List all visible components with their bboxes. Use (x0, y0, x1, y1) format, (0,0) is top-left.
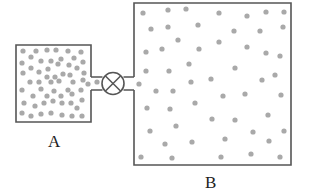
gas-particle (44, 74, 49, 79)
gas-particle (79, 97, 84, 102)
gas-particle (173, 123, 178, 128)
gas-particle (78, 49, 83, 54)
gas-particle (188, 79, 193, 84)
gas-particle (38, 111, 43, 116)
gas-particle (68, 100, 73, 105)
gas-particle (38, 86, 43, 91)
gas-particle (32, 103, 37, 108)
gas-particle (70, 79, 75, 84)
gas-particle (166, 68, 171, 73)
gas-particle (20, 48, 25, 53)
gas-particle (281, 128, 286, 133)
gas-particle (250, 129, 255, 134)
gas-particle (78, 87, 83, 92)
gas-particle (167, 106, 172, 111)
gas-particle (60, 71, 65, 76)
gas-particle (51, 88, 56, 93)
gas-particle (244, 44, 249, 49)
gas-particle (170, 88, 175, 93)
gas-particle (74, 65, 79, 70)
gas-particle (231, 28, 236, 33)
gas-particle (36, 79, 41, 84)
gas-particle (169, 155, 174, 160)
gas-particle (136, 81, 141, 86)
gas-particle (143, 49, 148, 54)
gas-particle (263, 50, 268, 55)
gas-particle (208, 76, 213, 81)
gas-particle (162, 141, 167, 146)
gas-particle (242, 91, 247, 96)
gas-particle (140, 10, 145, 15)
gas-particle (53, 47, 58, 52)
gas-expansion-diagram: A B (0, 0, 311, 193)
gas-particle (232, 65, 237, 70)
valve-icon[interactable] (102, 73, 124, 95)
gas-particle (148, 26, 153, 31)
gas-particle (69, 113, 74, 118)
gas-particle (209, 116, 214, 121)
gas-particle (281, 9, 286, 14)
gas-particle (147, 128, 152, 133)
gas-particle (20, 70, 25, 75)
gas-particle (189, 139, 194, 144)
gas-particle (65, 87, 70, 92)
gas-particle (218, 154, 223, 159)
gas-particle (183, 6, 188, 11)
gas-particle (165, 7, 170, 12)
gas-particle (67, 72, 72, 77)
gas-particle (81, 70, 86, 75)
container-a-label: A (48, 132, 61, 151)
gas-particle (79, 113, 84, 118)
gas-particle (52, 74, 57, 79)
gas-particle (36, 69, 41, 74)
gas-particle (44, 93, 49, 98)
gas-particle (33, 48, 38, 53)
gas-particle (153, 88, 158, 93)
gas-particle (48, 58, 53, 63)
container-a (16, 45, 91, 122)
gas-particle (55, 61, 60, 66)
gas-particle (232, 117, 237, 122)
gas-particle (74, 105, 79, 110)
gas-particle (277, 53, 282, 58)
gas-particle (143, 68, 148, 73)
gas-particle (30, 93, 35, 98)
gas-particle (56, 78, 61, 83)
gas-particle (48, 110, 53, 115)
particles-container-a (19, 47, 99, 118)
gas-particle (66, 62, 71, 67)
gas-particle (278, 92, 283, 97)
gas-particle (248, 151, 253, 156)
gas-particle (277, 154, 282, 159)
gas-particle (59, 100, 64, 105)
gas-particle (41, 100, 46, 105)
gas-particle (138, 154, 143, 159)
gas-particle (144, 105, 149, 110)
gas-particle (19, 87, 24, 92)
gas-particle (272, 72, 277, 77)
gas-particle (265, 112, 270, 117)
gas-particle (48, 79, 53, 84)
gas-particle (159, 46, 164, 51)
gas-particle (21, 100, 26, 105)
gas-particle (216, 39, 221, 44)
gas-particle (80, 59, 85, 64)
gas-particle (65, 48, 70, 53)
gas-particle (45, 66, 50, 71)
gas-particle (50, 98, 55, 103)
gas-particle (28, 65, 33, 70)
gas-particle (69, 91, 74, 96)
gas-particle (263, 9, 268, 14)
container-b-label: B (205, 173, 216, 192)
gas-particle (28, 54, 33, 59)
gas-particle (222, 136, 227, 141)
gas-particle (38, 58, 43, 63)
particles-container-b (136, 6, 286, 160)
gas-particle (71, 55, 76, 60)
gas-particle (165, 24, 170, 29)
gas-particle (266, 138, 271, 143)
gas-particle (259, 77, 264, 82)
gas-particle (216, 10, 221, 15)
gas-particle (80, 77, 85, 82)
gas-particle (192, 100, 197, 105)
